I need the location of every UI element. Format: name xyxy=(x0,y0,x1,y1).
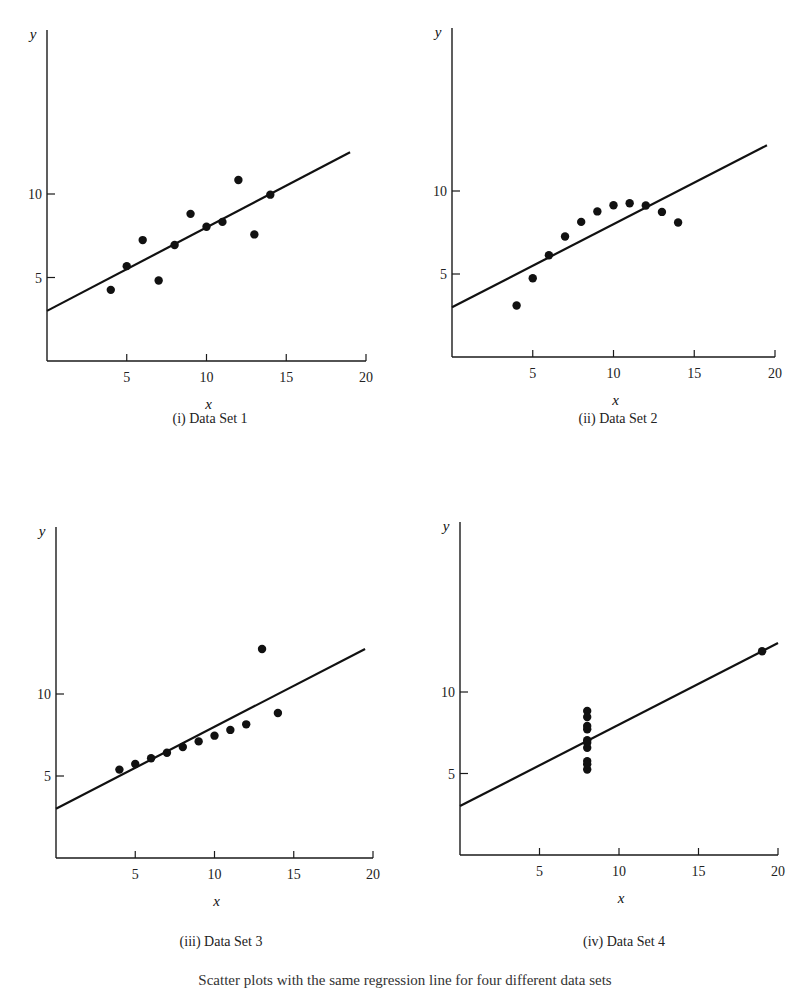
data-point xyxy=(131,760,139,768)
data-point xyxy=(226,726,234,734)
y-tick-label: 10 xyxy=(441,685,455,700)
data-point xyxy=(512,301,520,309)
data-point xyxy=(210,731,218,739)
data-point xyxy=(583,722,591,730)
data-point xyxy=(266,190,274,198)
x-tick-label: 20 xyxy=(366,867,380,882)
x-tick-label: 5 xyxy=(132,867,139,882)
data-point xyxy=(234,176,242,184)
y-tick-label: 10 xyxy=(28,187,42,202)
regression-line xyxy=(47,152,350,311)
data-point xyxy=(218,218,226,226)
x-axis-label: x xyxy=(204,396,212,412)
y-tick-label: 5 xyxy=(35,271,42,286)
data-point xyxy=(107,286,115,294)
data-point xyxy=(583,713,591,721)
panel-caption-2: (ii) Data Set 2 xyxy=(579,411,658,427)
x-tick-label: 15 xyxy=(692,864,706,879)
data-point xyxy=(583,738,591,746)
data-point xyxy=(186,210,194,218)
x-tick-label: 20 xyxy=(771,864,785,879)
data-point xyxy=(250,230,258,238)
data-point xyxy=(154,276,162,284)
scatter-plot-1: 5101520510yx xyxy=(20,18,390,418)
panel-caption-4: (iv) Data Set 4 xyxy=(583,934,665,950)
figure-caption: Scatter plots with the same regression l… xyxy=(198,972,611,989)
x-tick-label: 15 xyxy=(687,366,701,381)
y-tick-label: 5 xyxy=(440,267,447,282)
data-point xyxy=(593,207,601,215)
x-axis-label: x xyxy=(212,893,220,909)
data-point xyxy=(163,749,171,757)
scatter-plot-4: 5101520510yx xyxy=(433,510,803,910)
scatter-panel-4: 5101520510yx xyxy=(433,510,803,910)
x-tick-label: 5 xyxy=(529,366,536,381)
scatter-plot-2: 5101520510yx xyxy=(425,18,795,418)
x-axis-label: x xyxy=(617,890,625,906)
data-point xyxy=(274,709,282,717)
data-point xyxy=(609,201,617,209)
data-point xyxy=(115,765,123,773)
x-tick-label: 10 xyxy=(200,370,214,385)
panel-caption-1: (i) Data Set 1 xyxy=(172,411,247,427)
y-axis-label: y xyxy=(28,26,37,42)
y-tick-label: 5 xyxy=(44,769,51,784)
data-point xyxy=(170,241,178,249)
data-point xyxy=(545,251,553,259)
data-point xyxy=(658,208,666,216)
regression-line xyxy=(460,643,778,806)
scatter-panel-3: 5101520510yx xyxy=(30,515,400,915)
data-point xyxy=(625,199,633,207)
x-tick-label: 10 xyxy=(607,366,621,381)
x-tick-label: 20 xyxy=(768,366,782,381)
data-point xyxy=(758,647,766,655)
panel-caption-3: (iii) Data Set 3 xyxy=(180,934,263,950)
data-point xyxy=(202,223,210,231)
data-point xyxy=(529,274,537,282)
data-point xyxy=(194,737,202,745)
regression-line xyxy=(452,145,767,307)
data-point xyxy=(642,201,650,209)
x-tick-label: 5 xyxy=(536,864,543,879)
y-axis-label: y xyxy=(441,518,450,534)
scatter-plot-3: 5101520510yx xyxy=(30,515,400,915)
x-tick-label: 15 xyxy=(279,370,293,385)
x-tick-label: 20 xyxy=(359,370,373,385)
data-point xyxy=(139,236,147,244)
scatter-panel-1: 5101520510yx xyxy=(20,18,390,418)
regression-line xyxy=(56,649,365,809)
y-tick-label: 5 xyxy=(448,767,455,782)
data-point xyxy=(147,754,155,762)
data-point xyxy=(258,645,266,653)
y-tick-label: 10 xyxy=(37,687,51,702)
x-tick-label: 5 xyxy=(123,370,130,385)
y-tick-label: 10 xyxy=(433,184,447,199)
data-point xyxy=(179,743,187,751)
y-axis-label: y xyxy=(433,24,442,40)
scatter-panel-2: 5101520510yx xyxy=(425,18,795,418)
y-axis-label: y xyxy=(37,523,46,539)
x-tick-label: 10 xyxy=(208,867,222,882)
data-point xyxy=(242,720,250,728)
data-point xyxy=(674,218,682,226)
data-point xyxy=(561,232,569,240)
x-tick-label: 15 xyxy=(287,867,301,882)
x-tick-label: 10 xyxy=(612,864,626,879)
x-axis-label: x xyxy=(611,392,619,408)
data-point xyxy=(577,218,585,226)
data-point xyxy=(583,760,591,768)
data-point xyxy=(123,262,131,270)
